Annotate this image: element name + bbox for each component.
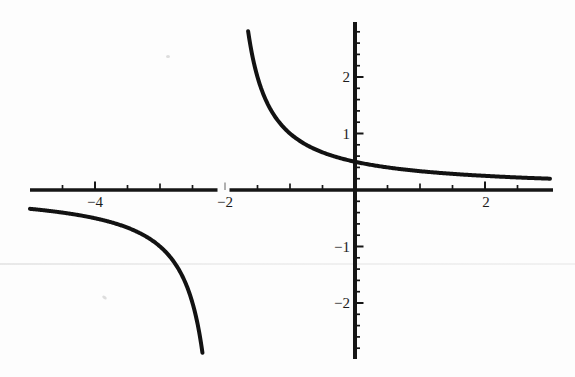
curve-right-branch [248,31,550,178]
y-tick-label: 1 [343,126,351,142]
y-tick-label: −2 [334,295,350,311]
x-tick-label: −4 [87,194,103,210]
x-tick-label: 2 [482,194,490,210]
y-tick-label: 2 [343,69,351,85]
function-plot-figure: −4−2221−1−2 [0,0,575,377]
hyperbola-plot-svg: −4−2221−1−2 [0,0,575,377]
x-tick-label: −2 [217,194,233,210]
y-tick-label: −1 [334,239,350,255]
curve-left-branch [30,209,202,353]
